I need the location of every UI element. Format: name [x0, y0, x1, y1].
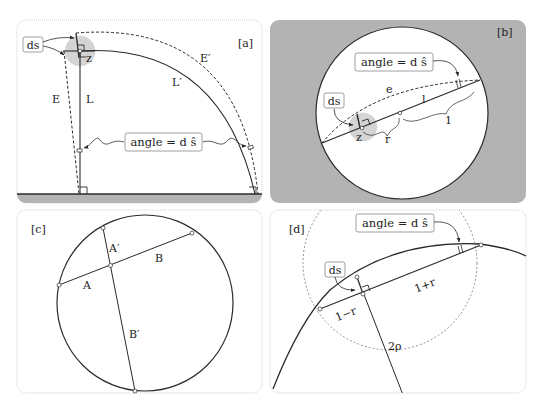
- label-A-prime: A′: [108, 242, 120, 255]
- panel-d-frame: [270, 210, 526, 393]
- label-A: A: [82, 279, 92, 292]
- panel-tag-b: [b]: [497, 26, 513, 39]
- label-r: r: [385, 133, 391, 146]
- label-ds: ds: [329, 264, 342, 277]
- panel-c: [c] A′ B A B′: [17, 210, 262, 393]
- panel-d: [d] 1+r 1−r 2ρ ds angle = d ŝ: [270, 176, 526, 400]
- panel-tag-a: [a]: [238, 37, 253, 50]
- label-L: L: [86, 93, 94, 106]
- label-L-prime: L′: [172, 76, 182, 89]
- label-angle: angle = d ŝ: [362, 216, 428, 230]
- label-1: 1: [445, 114, 452, 127]
- label-e: e: [386, 83, 393, 96]
- point: [361, 292, 365, 296]
- point: [190, 231, 194, 235]
- point-center: [398, 111, 402, 115]
- panel-tag-d: [d]: [289, 223, 305, 236]
- point: [318, 307, 322, 311]
- angle-tick: [77, 149, 82, 152]
- label-2rho: 2ρ: [388, 340, 401, 353]
- label-z: z: [356, 131, 362, 144]
- point-z: [78, 49, 82, 53]
- point: [57, 283, 61, 287]
- panel-c-frame: [17, 210, 262, 393]
- panel-a-frame: [17, 20, 262, 203]
- label-ds: ds: [328, 95, 341, 108]
- panel-a: ds z E L E′ L′ [a] angle = d ŝ: [17, 20, 262, 206]
- label-ds: ds: [27, 39, 40, 52]
- label-E-prime: E′: [200, 52, 211, 65]
- label-E: E: [52, 93, 60, 106]
- label-B: B: [155, 252, 163, 265]
- label-l: l: [422, 93, 426, 106]
- point: [479, 243, 483, 247]
- point-intersection: [109, 264, 113, 268]
- point: [355, 275, 359, 279]
- panel-tag-c: [c]: [31, 223, 46, 236]
- label-angle: angle = d ŝ: [131, 135, 197, 149]
- label-B-prime: B′: [129, 328, 140, 341]
- label-z: z: [86, 52, 92, 65]
- label-angle: angle = d ŝ: [361, 55, 427, 69]
- panel-b: z r e l 1 [b] ds angle = d ŝ: [270, 20, 526, 203]
- point: [133, 389, 137, 393]
- point-z: [360, 126, 364, 130]
- ground-band: [17, 194, 262, 206]
- point: [101, 226, 105, 230]
- figure: ds z E L E′ L′ [a] angle = d ŝ: [0, 0, 534, 409]
